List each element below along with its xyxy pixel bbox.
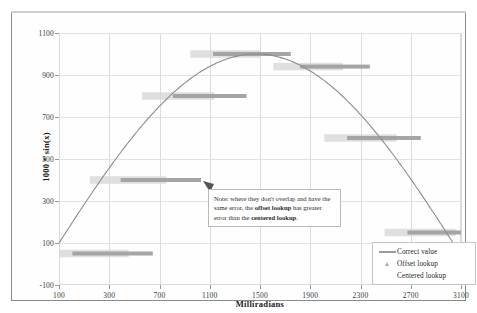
x-axis-title: Milliradians — [59, 299, 461, 309]
note-offset-bold: offset — [255, 204, 270, 211]
scanned-figure-frame: 1000 * sin(x) Milliradians 1003007001100… — [11, 12, 466, 301]
x-tick-mark — [361, 285, 362, 289]
y-tick-label: -100 — [39, 281, 54, 290]
y-tick-label: 1100 — [38, 29, 54, 38]
y-tick-label: 100 — [42, 239, 54, 248]
legend-item-offset-lookup: Offset lookup — [377, 258, 471, 270]
y-tick-label: 500 — [42, 155, 54, 164]
x-tick-mark — [310, 285, 311, 289]
legend-label-correct-value: Correct value — [397, 248, 437, 256]
line-key-icon — [377, 251, 397, 252]
band-marker-icon — [377, 274, 397, 278]
x-tick-label: 1900 — [302, 291, 318, 300]
note-centered-bold: centered lookup — [251, 214, 296, 221]
chart-legend: Correct value Offset lookup Centered loo… — [372, 242, 476, 285]
x-tick-mark — [411, 285, 412, 289]
note-period: . — [296, 214, 298, 221]
x-tick-mark — [461, 285, 462, 289]
x-tick-label: 700 — [154, 291, 166, 300]
x-tick-label: 2300 — [353, 291, 369, 300]
note-line-1: Note: where they don't overlap — [214, 195, 295, 202]
legend-label-centered-lookup: Centered lookup — [397, 272, 446, 280]
x-tick-label: 100 — [53, 291, 65, 300]
legend-item-centered-lookup: Centered lookup — [377, 270, 471, 282]
x-tick-mark — [109, 285, 110, 289]
x-tick-label: 2700 — [403, 291, 419, 300]
x-tick-label: 1100 — [202, 291, 218, 300]
x-tick-mark — [210, 285, 211, 289]
legend-label-offset-lookup: Offset lookup — [397, 260, 438, 268]
x-tick-mark — [160, 285, 161, 289]
y-tick-label: 300 — [42, 197, 54, 206]
x-tick-label: 300 — [103, 291, 115, 300]
chart-screenshot: 1000 * sin(x) Milliradians 1003007001100… — [0, 0, 477, 313]
y-tick-label: 900 — [42, 71, 54, 80]
y-tick-label: 700 — [42, 113, 54, 122]
x-tick-mark — [59, 285, 60, 289]
legend-item-correct-value: Correct value — [377, 246, 471, 258]
note-lookup-bold: lookup — [272, 204, 291, 211]
x-tick-mark — [260, 285, 261, 289]
x-tick-label: 1500 — [252, 291, 268, 300]
x-tick-label: 3100 — [453, 291, 469, 300]
y-tick-mark — [55, 285, 59, 286]
note-callout: Note: where they don't overlap and have … — [208, 189, 341, 227]
triangle-marker-icon — [377, 262, 397, 266]
